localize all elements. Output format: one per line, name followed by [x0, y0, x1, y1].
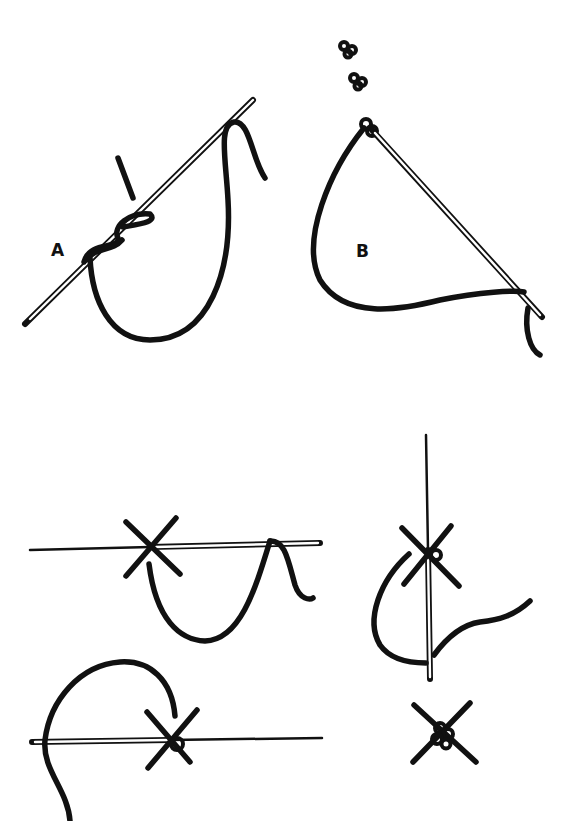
panel-e [32, 662, 322, 821]
label-a: A [51, 240, 64, 260]
panel-d [374, 435, 530, 679]
panel-a [25, 100, 265, 340]
diagram-canvas [0, 0, 569, 821]
finished-knot-2 [350, 74, 366, 90]
panel-f [413, 703, 476, 762]
finished-knot-1 [340, 42, 356, 58]
panel-c [30, 518, 320, 641]
panel-b [314, 42, 542, 355]
label-b: B [356, 241, 369, 261]
